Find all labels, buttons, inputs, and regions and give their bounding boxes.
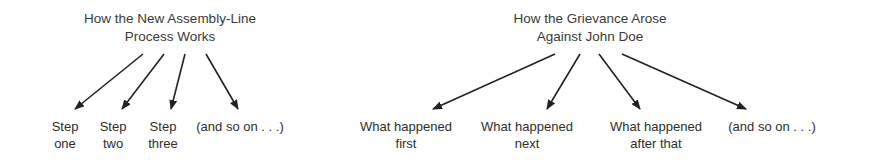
- arrow-icon: [171, 54, 185, 109]
- arrow-icon: [622, 54, 746, 109]
- arrow-icon: [433, 54, 555, 109]
- arrow-icon: [599, 54, 640, 109]
- arrow-icon: [75, 54, 143, 109]
- arrow-icon: [547, 54, 580, 109]
- arrow-icon: [206, 54, 238, 109]
- arrow-icon: [122, 54, 164, 109]
- arrows-layer: [0, 0, 877, 160]
